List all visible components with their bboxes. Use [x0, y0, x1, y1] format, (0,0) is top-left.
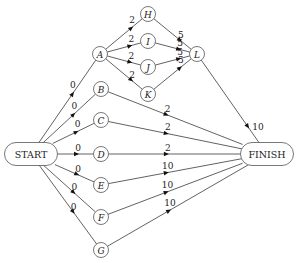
- edge-weight: 10: [164, 198, 176, 208]
- edge-start-g: 0: [39, 165, 97, 244]
- edge-a-j: 2: [107, 51, 141, 65]
- edge-weight: 0: [71, 101, 77, 111]
- edge-weight: 10: [252, 122, 264, 132]
- node-c: C: [94, 113, 109, 128]
- nodes-layer: ABCDEFGHIJKLSTARTFINISH: [5, 7, 294, 258]
- node-f: F: [94, 210, 109, 225]
- arrowhead-icon: [163, 171, 168, 175]
- edge-g-finish: 10: [107, 165, 248, 247]
- edge-weight: 2: [129, 15, 135, 25]
- edge-c-finish: 2: [108, 122, 242, 150]
- node-g: G: [94, 243, 109, 258]
- edge-start-f: 0: [43, 165, 96, 212]
- edge-weight: 0: [72, 182, 78, 192]
- node-i: I: [141, 34, 156, 49]
- edge-weight: 5: [178, 55, 184, 65]
- finish-label: FINISH: [248, 149, 285, 160]
- node-label: F: [97, 213, 105, 223]
- node-label: K: [144, 90, 153, 100]
- edge-weight: 2: [129, 34, 135, 44]
- arrowhead-icon: [244, 123, 249, 128]
- node-label: I: [145, 37, 150, 47]
- start-terminal: START: [5, 143, 58, 166]
- edge-start-c: 0: [53, 119, 94, 143]
- node-label: B: [97, 85, 105, 95]
- node-label: L: [193, 50, 200, 60]
- node-h: H: [141, 7, 156, 22]
- node-label: H: [143, 10, 152, 20]
- edge-start-e: 0: [55, 164, 94, 182]
- edge-weight: 0: [75, 119, 81, 129]
- edge-b-finish: 2: [108, 92, 243, 145]
- node-label: A: [96, 50, 104, 60]
- edge-weight: 2: [129, 70, 135, 80]
- edge-weight: 2: [165, 104, 171, 114]
- edge-j-l: 5: [155, 47, 190, 65]
- edge-weight: 0: [71, 202, 77, 212]
- edges-layer: 00000002222555510222101010: [38, 15, 264, 246]
- edge-a-i: 2: [107, 34, 141, 52]
- node-k: K: [141, 87, 156, 102]
- edge-weight: 10: [162, 180, 174, 190]
- node-e: E: [94, 178, 109, 193]
- edge-weight: 2: [129, 51, 135, 61]
- edge-l-finish: 10: [201, 60, 264, 143]
- activity-network-diagram: 00000002222555510222101010 ABCDEFGHIJKLS…: [0, 0, 297, 263]
- node-a: A: [93, 47, 108, 62]
- node-b: B: [94, 82, 109, 97]
- node-label: C: [98, 116, 105, 126]
- edge-weight: 0: [75, 164, 81, 174]
- node-d: D: [94, 147, 109, 162]
- edge-a-k: 2: [106, 59, 142, 89]
- node-j: J: [141, 60, 156, 75]
- node-label: E: [97, 181, 105, 191]
- edge-weight: 2: [165, 122, 171, 132]
- edge-i-l: 5: [155, 38, 190, 52]
- edge-start-d: 0: [55, 143, 93, 157]
- arrowhead-icon: [166, 209, 171, 213]
- edge-weight: 0: [70, 80, 76, 90]
- node-label: D: [96, 150, 104, 160]
- edge-h-l: 5: [154, 19, 191, 50]
- node-l: L: [190, 47, 205, 62]
- edge-k-l: 5: [154, 55, 191, 89]
- edge-weight: 0: [75, 143, 81, 153]
- edge-weight: 10: [162, 161, 174, 171]
- arrowhead-icon: [69, 92, 74, 97]
- node-label: G: [97, 246, 104, 256]
- edge-weight: 2: [165, 143, 171, 153]
- start-label: START: [15, 149, 48, 160]
- arrowhead-icon: [163, 191, 168, 195]
- edge-start-b: 0: [42, 94, 95, 143]
- finish-terminal: FINISH: [241, 143, 294, 166]
